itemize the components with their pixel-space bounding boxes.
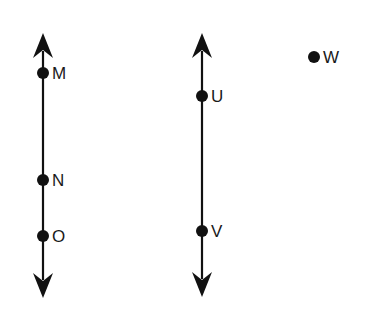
diagram-canvas: MNOUVW — [0, 0, 392, 309]
line-middle — [192, 33, 212, 297]
point-m-label: M — [52, 64, 66, 83]
point-v-label: V — [211, 222, 223, 241]
point-o-dot — [37, 230, 49, 242]
point-u-dot — [196, 90, 208, 102]
point-n-label: N — [52, 171, 64, 190]
point-v-dot — [196, 225, 208, 237]
points-layer — [37, 51, 320, 242]
point-u-label: U — [211, 87, 223, 106]
point-w-label: W — [323, 48, 339, 67]
point-o-label: O — [52, 227, 65, 246]
point-w-dot — [308, 51, 320, 63]
labels-layer: MNOUVW — [52, 48, 339, 246]
point-n-dot — [37, 174, 49, 186]
point-m-dot — [37, 67, 49, 79]
